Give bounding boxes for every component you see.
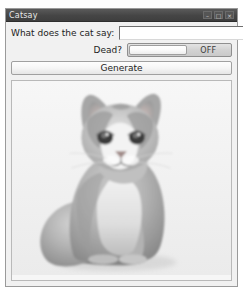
dead-toggle-switch[interactable]: OFF (127, 43, 232, 57)
dead-label: Dead? (11, 44, 127, 56)
desktop-background: Catsay – □ × What does the cat say: Dead… (0, 0, 243, 295)
cat-photo (12, 81, 231, 275)
maximize-icon: □ (215, 11, 222, 20)
minimize-icon: – (204, 11, 211, 20)
generate-row: Generate (11, 60, 232, 75)
toggle-state-label: OFF (188, 44, 231, 56)
cat-say-row: What does the cat say: (11, 26, 232, 40)
close-icon: × (226, 11, 233, 20)
window-title: Catsay (9, 11, 38, 20)
generate-button[interactable]: Generate (11, 61, 232, 75)
title-bar[interactable]: Catsay – □ × (6, 9, 237, 22)
application-window: Catsay – □ × What does the cat say: Dead… (5, 8, 238, 287)
cat-image-pane (11, 80, 232, 281)
close-button[interactable]: × (225, 11, 234, 19)
form-area: What does the cat say: Dead? OFF Generat… (6, 22, 237, 79)
cat-say-label: What does the cat say: (11, 27, 119, 39)
cat-say-input[interactable] (119, 26, 243, 40)
maximize-button[interactable]: □ (214, 11, 223, 19)
toggle-thumb[interactable] (129, 45, 187, 55)
dead-row: Dead? OFF (11, 43, 232, 57)
minimize-button[interactable]: – (203, 11, 212, 19)
